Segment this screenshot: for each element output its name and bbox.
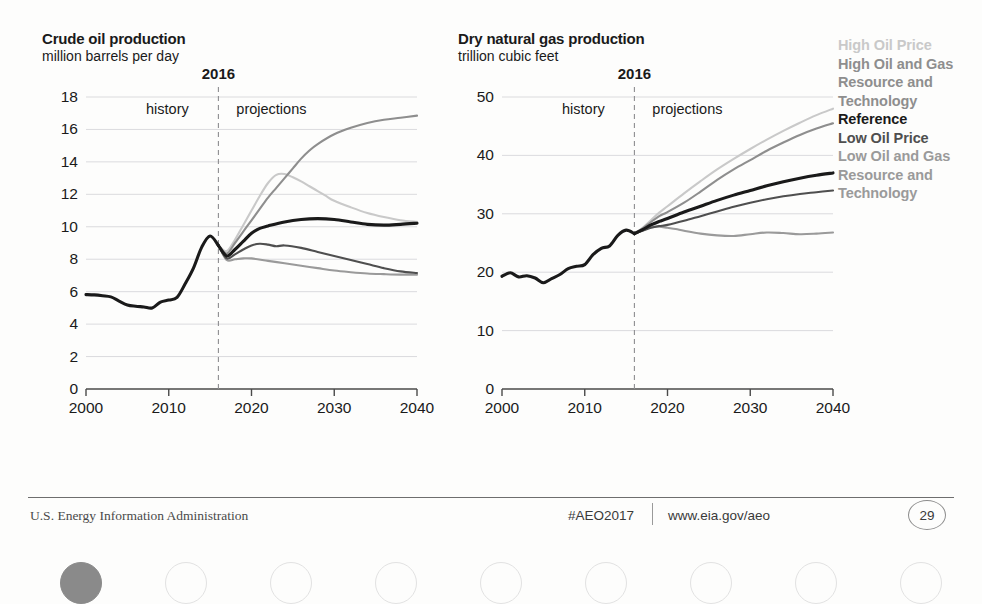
footer-hashtag: #AEO2017 xyxy=(568,508,634,523)
x-axis-tick-label: 2010 xyxy=(139,400,199,415)
y-axis-tick-label: 50 xyxy=(460,89,494,104)
x-axis-tick-label: 2030 xyxy=(720,400,780,415)
pagination-dot[interactable] xyxy=(900,562,942,604)
y-axis-tick-label: 18 xyxy=(44,89,78,104)
y-axis-tick-label: 0 xyxy=(44,381,78,396)
y-axis-tick-label: 40 xyxy=(460,147,494,162)
plot-svg-crude-oil xyxy=(42,79,422,439)
x-axis-tick-label: 2000 xyxy=(56,400,116,415)
x-axis-tick-label: 2040 xyxy=(803,400,863,415)
projections-region-label: projections xyxy=(226,101,316,117)
chart-legend: High Oil Price High Oil and Gas Resource… xyxy=(838,36,978,203)
y-axis-tick-label: 16 xyxy=(44,121,78,136)
plot-crude-oil: 024681012141618200020102020203020402016h… xyxy=(42,79,422,439)
footer-agency-name: U.S. Energy Information Administration xyxy=(30,508,248,524)
legend-item-high-oil-price: High Oil Price xyxy=(838,36,978,55)
legend-item-high-oil-and-gas-resource-and-technology: High Oil and Gas Resource and Technology xyxy=(838,55,978,111)
x-axis-tick-label: 2020 xyxy=(638,400,698,415)
history-region-label: history xyxy=(122,101,212,117)
history-region-label: history xyxy=(538,101,628,117)
footer-separator xyxy=(652,503,653,525)
plot-dry-natural-gas: 01020304050200020102020203020402016histo… xyxy=(458,79,838,439)
x-axis-tick-label: 2000 xyxy=(472,400,532,415)
plot-svg-dry-natural-gas xyxy=(458,79,838,439)
x-axis-tick-label: 2030 xyxy=(304,400,364,415)
y-axis-tick-label: 6 xyxy=(44,284,78,299)
chart-title-crude-oil: Crude oil production xyxy=(42,30,442,47)
y-axis-tick-label: 14 xyxy=(44,154,78,169)
page-number-badge: 29 xyxy=(908,500,946,530)
y-axis-tick-label: 10 xyxy=(44,219,78,234)
pagination-dot[interactable] xyxy=(585,562,627,604)
x-axis-tick-label: 2040 xyxy=(387,400,447,415)
footer-url[interactable]: www.eia.gov/aeo xyxy=(668,508,770,523)
chart-title-dry-natural-gas: Dry natural gas production xyxy=(458,30,858,47)
footer-divider xyxy=(28,497,954,498)
y-axis-tick-label: 10 xyxy=(460,323,494,338)
pagination-dot[interactable] xyxy=(60,562,102,604)
y-axis-tick-label: 0 xyxy=(460,381,494,396)
chart-subtitle-crude-oil: million barrels per day xyxy=(42,48,442,65)
y-axis-tick-label: 8 xyxy=(44,251,78,266)
chart-panel-crude-oil: Crude oil production million barrels per… xyxy=(42,30,442,439)
divider-year-label: 2016 xyxy=(604,65,664,82)
legend-item-low-oil-price: Low Oil Price xyxy=(838,129,978,148)
divider-year-label: 2016 xyxy=(188,65,248,82)
pagination-dot[interactable] xyxy=(480,562,522,604)
pagination-dot[interactable] xyxy=(690,562,732,604)
projections-region-label: projections xyxy=(642,101,732,117)
pagination-dot[interactable] xyxy=(270,562,312,604)
y-axis-tick-label: 2 xyxy=(44,349,78,364)
chart-panel-dry-natural-gas: Dry natural gas production trillion cubi… xyxy=(458,30,858,439)
pagination-dot[interactable] xyxy=(795,562,837,604)
y-axis-tick-label: 30 xyxy=(460,206,494,221)
y-axis-tick-label: 20 xyxy=(460,264,494,279)
pagination-dots[interactable] xyxy=(0,558,982,589)
chart-subtitle-dry-natural-gas: trillion cubic feet xyxy=(458,48,858,65)
x-axis-tick-label: 2010 xyxy=(555,400,615,415)
legend-item-reference: Reference xyxy=(838,110,978,129)
charts-area: Crude oil production million barrels per… xyxy=(0,0,982,480)
pagination-dot[interactable] xyxy=(165,562,207,604)
pagination-dot[interactable] xyxy=(375,562,417,604)
y-axis-tick-label: 12 xyxy=(44,186,78,201)
x-axis-tick-label: 2020 xyxy=(222,400,282,415)
legend-item-low-oil-and-gas-resource-and-technology: Low Oil and Gas Resource and Technology xyxy=(838,147,978,203)
y-axis-tick-label: 4 xyxy=(44,316,78,331)
